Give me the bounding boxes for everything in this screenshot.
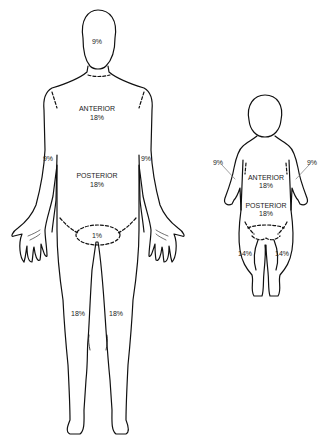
adult-left-leg-label: 18% [71,310,85,318]
rule-of-nines-diagram: 9% ANTERIOR 18% POSTERIOR 18% 9% 9% 1% 1… [0,0,326,441]
adult-head-label: 9% [92,38,102,46]
child-left-arm-label: 9% [213,159,223,167]
child-inner-arm-left [241,160,243,210]
child-posterior-value: 18% [259,210,273,218]
adult-palm-lines-right [156,230,168,240]
child-left-leg-label: 14% [238,250,252,258]
child-right-arm-label: 9% [307,159,317,167]
body-outlines [0,0,326,441]
adult-left-arm-label: 9% [43,155,53,163]
adult-right-leg-label: 18% [109,310,123,318]
adult-anterior-value: 18% [90,114,104,122]
child-figure [222,95,309,296]
adult-right-arm-label: 9% [141,155,151,163]
adult-posterior-value: 18% [90,181,104,189]
adult-anterior-label: ANTERIOR [79,105,115,113]
child-posterior-label: POSTERIOR [245,202,286,210]
child-head-outline [248,95,281,137]
child-leg-inner-left [254,240,258,270]
child-inner-arm-right [289,160,291,210]
child-anterior-label: ANTERIOR [248,174,284,182]
adult-figure [12,10,184,434]
adult-palm-lines-left [28,230,40,240]
child-right-leg-label: 14% [275,250,289,258]
adult-genitals-label: 1% [92,232,102,240]
adult-dashed-boundaries [52,75,144,245]
adult-knee-left [89,335,90,350]
adult-posterior-label: POSTERIOR [76,172,117,180]
child-anterior-value: 18% [259,182,273,190]
